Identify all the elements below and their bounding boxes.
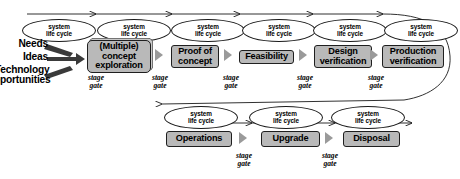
- stage-box-production-verification[interactable]: Production verification: [382, 45, 444, 68]
- stage-gate-line2: gate: [298, 81, 311, 90]
- input-label-ideas: Ideas: [0, 51, 48, 62]
- stage-box-disposal[interactable]: Disposal: [343, 131, 400, 147]
- stage-gate-label: stagegate: [356, 74, 396, 91]
- stage-box-concept-exploration[interactable]: (Multiple) concept exploration: [87, 40, 151, 73]
- stage-gate-label: stagegate: [224, 152, 264, 169]
- input-label-opportunities: pportunities: [0, 74, 48, 85]
- stage-gate-line2: gate: [89, 81, 102, 90]
- lifecycle-label-line2: life cycle: [355, 118, 381, 125]
- stage-box-design-verification[interactable]: Design verification: [314, 45, 372, 68]
- stage-box-label: Upgrade: [273, 134, 309, 144]
- lifecycle-ellipse: system life cycle: [313, 19, 387, 42]
- stage-gate-label: stagegate: [310, 152, 350, 169]
- stage-gate-line2: gate: [237, 159, 250, 168]
- lifecycle-ellipse: system life cycle: [97, 19, 171, 42]
- stage-gate-line2: gate: [323, 159, 336, 168]
- stage-gate-line2: gate: [153, 81, 166, 90]
- stage-gate-arrow: [299, 49, 307, 61]
- lifecycle-label-line2: life cycle: [337, 31, 363, 38]
- stage-box-operations[interactable]: Operations: [166, 131, 232, 147]
- stage-box-label: Feasibility: [245, 52, 288, 62]
- stage-gate-arrow: [325, 132, 333, 144]
- stage-gate-label: stagegate: [285, 74, 325, 91]
- stage-gate-arrow: [155, 49, 163, 61]
- diagram-canvas: system life cycle system life cycle syst…: [0, 0, 460, 179]
- lifecycle-ellipse: system life cycle: [384, 19, 458, 42]
- stage-gate-line2: gate: [224, 81, 237, 90]
- stage-box-label: Operations: [176, 134, 223, 144]
- lifecycle-label-line2: life cycle: [188, 118, 214, 125]
- stage-gate-arrow: [224, 49, 232, 61]
- stage-gate-label: stagegate: [211, 74, 251, 91]
- stage-gate-line2: gate: [369, 81, 382, 90]
- stage-gate-label: stagegate: [76, 74, 116, 91]
- stage-gate-arrow: [239, 132, 247, 144]
- stage-gate-arrow: [370, 49, 378, 61]
- lifecycle-ellipse: system life cycle: [164, 106, 238, 129]
- lifecycle-label-line2: life cycle: [408, 31, 434, 38]
- lifecycle-label-line2: life cycle: [46, 31, 72, 38]
- lifecycle-label-line2: life cycle: [121, 31, 147, 38]
- stage-box-upgrade[interactable]: Upgrade: [261, 131, 320, 147]
- stage-box-label: Disposal: [353, 134, 390, 144]
- stage-box-feasibility[interactable]: Feasibility: [239, 50, 294, 64]
- lifecycle-label-line2: life cycle: [195, 31, 221, 38]
- lifecycle-label-line2: life cycle: [273, 118, 299, 125]
- stage-box-proof-of-concept[interactable]: Proof of concept: [171, 45, 219, 68]
- stage-gate-label: stagegate: [140, 74, 180, 91]
- stage-box-label: Production verification: [390, 47, 437, 67]
- lifecycle-ellipse: system life cycle: [249, 106, 323, 129]
- lifecycle-label-line2: life cycle: [266, 31, 292, 38]
- stage-box-label: Proof of concept: [178, 47, 212, 67]
- stage-box-label: (Multiple) concept exploration: [95, 42, 142, 71]
- input-label-needs: Needs: [0, 38, 48, 49]
- stage-box-label: Design verification: [320, 47, 367, 67]
- lifecycle-ellipse: system life cycle: [331, 106, 405, 129]
- lifecycle-ellipse: system life cycle: [171, 19, 245, 42]
- lifecycle-ellipse: system life cycle: [242, 19, 316, 42]
